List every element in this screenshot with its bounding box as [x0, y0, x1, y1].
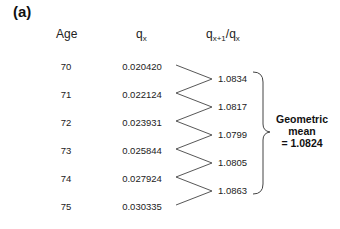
geometric-mean-line1: Geometric	[274, 113, 330, 125]
ratio-value: 1.0863	[218, 185, 247, 196]
curly-brace-icon	[253, 72, 270, 194]
ratio-value: 1.0805	[218, 157, 247, 168]
ratio-value: 1.0799	[218, 129, 247, 140]
ratio-value: 1.0834	[218, 73, 247, 84]
geometric-mean-value: = 1.0824	[274, 137, 330, 149]
geometric-mean-label: Geometric mean = 1.0824	[274, 113, 330, 149]
geometric-mean-line2: mean	[274, 125, 330, 137]
zigzag-line	[176, 65, 212, 205]
ratio-value: 1.0817	[218, 101, 247, 112]
